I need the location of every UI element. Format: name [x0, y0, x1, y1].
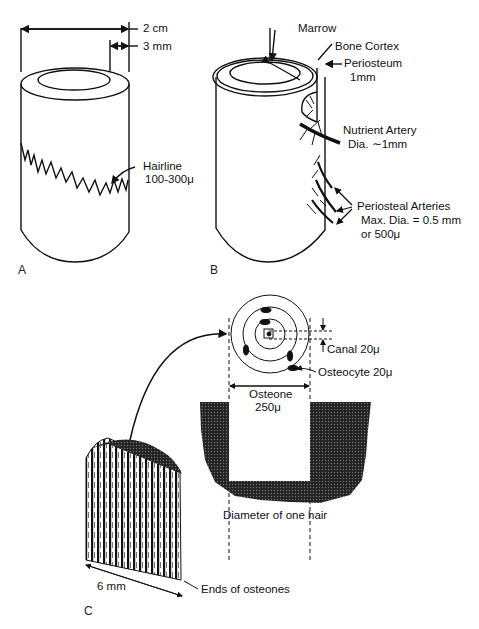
nutrient-artery-dia: Dia. ∼1mm [348, 138, 407, 151]
ends-of-osteones-label: Ends of osteones [201, 583, 290, 596]
osteocyte-label: Osteocyte 20μ [318, 366, 392, 379]
panel-b-bone [213, 28, 342, 262]
hairline-label: Hairline [143, 160, 182, 173]
panel-letter-c: C [84, 604, 93, 618]
osteone-size: 250μ [255, 401, 281, 414]
panel-letter-b: B [210, 263, 218, 277]
dim-outer-label: 2 cm [143, 22, 168, 35]
bone-block [86, 438, 198, 596]
periosteal-arteries-label: Periosteal Arteries [357, 200, 450, 213]
periosteum-size: 1mm [350, 71, 376, 84]
periosteal-max-dia: Max. Dia. = 0.5 mm [361, 214, 461, 227]
canal-label: Canal 20μ [327, 343, 380, 356]
bone-diagram [0, 0, 479, 629]
marrow-label: Marrow [298, 22, 336, 35]
periosteum-label: Periosteum [344, 57, 402, 70]
block-width-label: 6 mm [97, 580, 126, 593]
bone-cortex-label: Bone Cortex [335, 40, 399, 53]
dim-wall-label: 3 mm [143, 40, 172, 53]
nutrient-artery-label: Nutrient Artery [343, 124, 417, 137]
panel-letter-a: A [18, 263, 26, 277]
hairline-size: 100-300μ [145, 173, 194, 186]
periosteal-alt-dia: or 500μ [361, 228, 400, 241]
arteries [300, 96, 352, 224]
panel-a-bone [21, 22, 138, 262]
hair-caption: Diameter of one hair [223, 509, 327, 522]
osteone-label: Osteone [249, 388, 292, 401]
